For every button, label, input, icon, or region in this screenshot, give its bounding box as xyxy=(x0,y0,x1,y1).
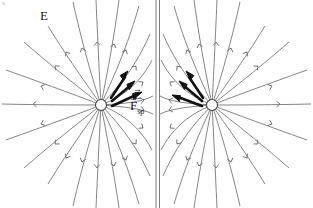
force-label: → F sp xyxy=(130,99,144,116)
corner-mark: s xyxy=(2,0,5,7)
force-subscript: sp xyxy=(137,107,144,116)
right-charge xyxy=(207,100,218,111)
neutral-plane xyxy=(156,0,160,208)
vector-arrow-icon: → xyxy=(129,94,137,103)
left-charge xyxy=(96,100,107,111)
right-charge-field-lines xyxy=(160,0,311,208)
field-label-E-text: E xyxy=(40,8,48,23)
field-line-canvas xyxy=(0,0,313,208)
field-label-E: E xyxy=(40,9,48,22)
electric-field-diagram: s E → E → F sp xyxy=(0,0,313,208)
force-vector-stack: → F xyxy=(130,99,137,112)
